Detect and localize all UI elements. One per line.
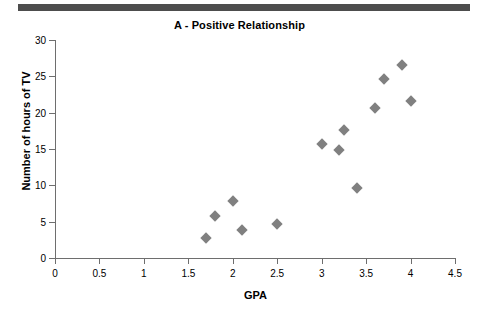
data-point [338, 124, 349, 135]
data-point [369, 102, 380, 113]
data-point [209, 210, 220, 221]
x-axis-tick-label: 2.5 [257, 268, 297, 279]
x-axis-line [55, 258, 456, 259]
x-axis-tick-label: 2 [213, 268, 253, 279]
data-point [227, 196, 238, 207]
data-point [378, 74, 389, 85]
chart-title: A - Positive Relationship [0, 19, 479, 31]
x-axis-tick-label: 0.5 [79, 268, 119, 279]
data-point [316, 138, 327, 149]
data-point [396, 59, 407, 70]
x-axis-tick-label: 3 [302, 268, 342, 279]
x-axis-tick [455, 258, 456, 264]
x-axis-tick-label: 4.5 [435, 268, 475, 279]
x-axis-tick-label: 0 [35, 268, 75, 279]
x-axis-tick [366, 258, 367, 264]
data-point [405, 95, 416, 106]
data-point [352, 182, 363, 193]
y-axis-tick-label: 0 [2, 253, 46, 264]
x-axis-tick [99, 258, 100, 264]
x-axis-tick [277, 258, 278, 264]
x-axis-tick [144, 258, 145, 264]
x-axis-tick-label: 4 [391, 268, 431, 279]
data-point [200, 232, 211, 243]
x-axis-tick [55, 258, 56, 264]
x-axis-tick [322, 258, 323, 264]
x-axis-tick-label: 1 [124, 268, 164, 279]
data-point [272, 218, 283, 229]
x-axis-title: GPA [55, 289, 456, 301]
x-axis-tick [233, 258, 234, 264]
x-axis-tick-label: 1.5 [168, 268, 208, 279]
x-axis-tick [188, 258, 189, 264]
x-axis-tick-label: 3.5 [346, 268, 386, 279]
y-axis-title: Number of hours of TV [20, 41, 32, 221]
data-point [236, 225, 247, 236]
data-point [334, 145, 345, 156]
plot-area [55, 40, 455, 258]
scatter-chart: A - Positive Relationship 051015202530 0… [0, 0, 479, 318]
x-axis-tick [411, 258, 412, 264]
